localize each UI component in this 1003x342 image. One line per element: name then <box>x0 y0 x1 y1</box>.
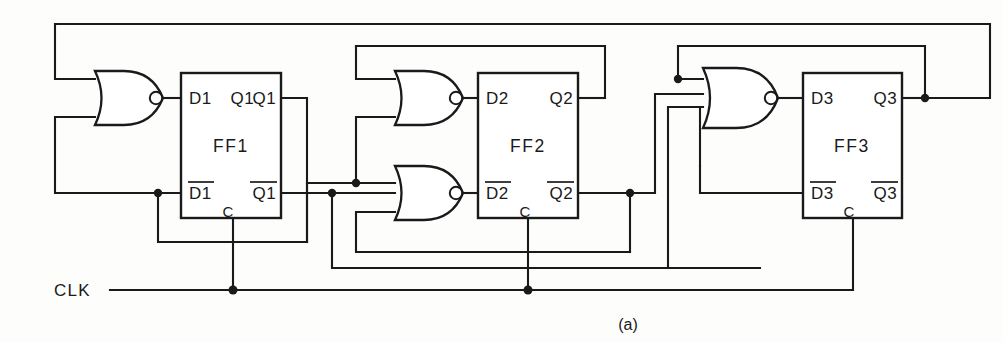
ff1-clock-label: C <box>223 203 234 220</box>
ff1-d-label: D1 <box>189 89 212 108</box>
ff2-clock-label: C <box>520 203 531 220</box>
nor-gate-2a-bubble-icon <box>450 92 462 104</box>
ff1-qbar-label: Q1 <box>253 184 276 203</box>
ff1-q-label-right: Q1 <box>253 89 276 108</box>
circuit-diagram: D1 Q1 Q1 FF1 D1 Q1 C D2 Q2 FF2 D2 Q2 C D… <box>0 0 1003 342</box>
ff2-name-label: FF2 <box>510 136 546 156</box>
ff1-name-label: FF1 <box>213 136 249 156</box>
wire-nor1-top-input <box>55 24 95 79</box>
ff3-qbar-label: Q3 <box>874 184 897 203</box>
figure-container: D1 Q1 Q1 FF1 D1 Q1 C D2 Q2 FF2 D2 Q2 C D… <box>0 0 1003 342</box>
ff2-qbar-label: Q2 <box>550 184 573 203</box>
wire-q1-out <box>281 98 307 242</box>
ff2-d-label: D2 <box>486 89 509 108</box>
nor-gate-2b <box>395 166 463 220</box>
ff3-d-label: D3 <box>811 89 834 108</box>
ff1-q-label: Q1 <box>231 89 254 108</box>
clock-signal-label: CLK <box>54 281 91 300</box>
ff3-clock-label: C <box>844 203 855 220</box>
junction-dot-q3 <box>921 94 929 102</box>
wire-d3bar-feed <box>700 166 803 193</box>
ff3-name-label: FF3 <box>834 136 870 156</box>
ff2-dbar-label: D2 <box>486 184 509 203</box>
junction-dot-nor3-top <box>674 75 682 83</box>
nor-gate-2b-bubble-icon <box>450 187 462 199</box>
wire-ff3-clock-stub <box>528 218 853 290</box>
wire-nor3-top-input <box>678 46 703 79</box>
flipflop-ff3[interactable]: D3 Q3 FF3 D3 Q3 C <box>803 73 902 220</box>
flipflop-ff2[interactable]: D2 Q2 FF2 D2 Q2 C <box>478 73 578 220</box>
ff2-q-label: Q2 <box>550 89 573 108</box>
wire-q2bar-to-nor3-mid <box>630 94 703 193</box>
nor-gate-3-bubble-icon <box>765 92 777 104</box>
ff3-dbar-label: D3 <box>811 184 834 203</box>
ff3-q-label: Q3 <box>874 89 897 108</box>
figure-caption: (a) <box>618 316 638 333</box>
nor-gate-3 <box>703 68 778 128</box>
wire-d1bar-to-nor1-bottom <box>55 117 181 193</box>
wire-nor2a-bottom-input <box>356 117 395 183</box>
wire-nor3-bottom-input <box>668 107 703 268</box>
ff1-dbar-label: D1 <box>189 184 212 203</box>
nor-gate-1 <box>95 71 163 125</box>
wire-nor2a-top-input <box>356 46 395 79</box>
flipflop-ff1[interactable]: D1 Q1 Q1 FF1 D1 Q1 C <box>181 73 281 220</box>
nor-gate-2a <box>395 71 463 125</box>
nor-gate-1-bubble-icon <box>150 92 162 104</box>
